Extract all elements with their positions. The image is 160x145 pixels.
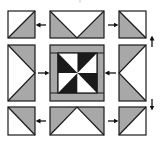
center-pinwheel — [50, 45, 104, 101]
quilt-assembly-diagram — [0, 0, 160, 145]
flying-geese-left — [8, 45, 35, 101]
diagram-canvas — [0, 0, 160, 145]
pinwheel — [58, 53, 97, 93]
corner-bottom-left — [8, 107, 35, 135]
flying-geese-bottom — [50, 107, 104, 135]
corner-bottom-right — [119, 107, 146, 135]
corner-top-right — [119, 11, 146, 38]
flying-geese-top — [50, 11, 104, 38]
corner-top-left — [8, 11, 35, 38]
flying-geese-right — [119, 45, 146, 101]
